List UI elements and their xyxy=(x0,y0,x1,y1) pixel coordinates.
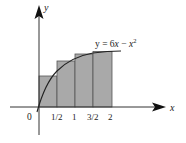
y-axis-label: y xyxy=(43,2,49,13)
rectangle-3 xyxy=(75,54,93,107)
tick-label-two: 2 xyxy=(108,112,113,122)
function-label: y = 6x − x2 xyxy=(95,37,136,49)
origin-label: 0 xyxy=(27,112,32,122)
tick-label-three-halves: 3/2 xyxy=(87,112,99,122)
rectangle-1 xyxy=(39,76,57,107)
rectangle-4 xyxy=(93,52,112,108)
tick-label-one: 1 xyxy=(72,112,77,122)
riemann-sum-diagram: y x 0 1/2 1 3/2 2 y = 6x − x2 xyxy=(0,0,186,143)
tick-label-half: 1/2 xyxy=(51,112,63,122)
x-axis-label: x xyxy=(169,102,175,113)
